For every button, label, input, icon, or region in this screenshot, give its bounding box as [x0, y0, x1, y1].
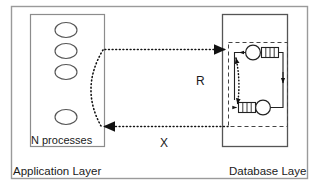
n-processes-label: N processes [31, 135, 92, 146]
circle-transaction-icon [256, 100, 271, 115]
diagram-svg [0, 0, 319, 188]
circle-transaction-icon [246, 45, 261, 60]
striped-resource-icon [262, 48, 279, 58]
striped-resource-icon [239, 103, 256, 113]
edge-label-x: X [160, 137, 168, 149]
edge-label-r: R [196, 75, 205, 87]
diagram-canvas: N processes Application Layer Database L… [0, 0, 319, 188]
database-layer-label: Database Laye [229, 166, 306, 178]
application-layer-label: Application Layer [13, 166, 101, 178]
